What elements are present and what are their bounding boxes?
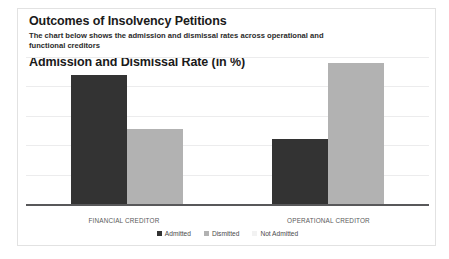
subtitle-text: The chart below shows the admission and … — [29, 31, 329, 50]
legend-swatch-dismitted — [204, 231, 209, 236]
legend-label-admitted: Admitted — [165, 230, 191, 237]
bar-dismitted-financial-creditor — [127, 129, 183, 204]
legend-label-dismitted: Dismitted — [212, 230, 239, 237]
legend-swatch-not-admitted — [252, 231, 257, 236]
legend-swatch-admitted — [157, 231, 162, 236]
gridline-100 — [26, 57, 429, 58]
x-axis-label-financial-creditor: FINANCIAL CREDITOR — [26, 217, 222, 224]
x-axis-label-operational-creditor: OPERATIONAL CREDITOR — [228, 217, 429, 224]
chart-legend: AdmittedDismittedNot Admitted — [18, 230, 436, 237]
legend-item-admitted[interactable]: Admitted — [157, 230, 191, 237]
bar-dismitted-operational-creditor — [328, 63, 384, 204]
page-title: Outcomes of Insolvency Petitions — [29, 14, 429, 29]
legend-item-not-admitted[interactable]: Not Admitted — [252, 230, 298, 237]
x-axis-line — [26, 204, 429, 206]
chart-card: Outcomes of Insolvency Petitions The cha… — [17, 8, 436, 246]
bar-admitted-financial-creditor — [71, 75, 127, 204]
legend-label-not-admitted: Not Admitted — [260, 230, 298, 237]
bar-admitted-operational-creditor — [272, 139, 328, 204]
chart-plot-area — [26, 57, 429, 204]
legend-item-dismitted[interactable]: Dismitted — [204, 230, 239, 237]
